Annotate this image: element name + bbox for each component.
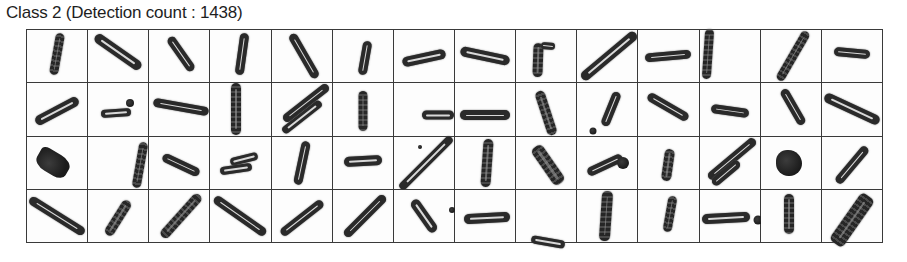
crystal-rod xyxy=(706,136,758,181)
crystal-rod xyxy=(829,192,875,249)
crystal-rod xyxy=(779,88,807,127)
detection-cell[interactable] xyxy=(577,190,638,243)
crystal-rod xyxy=(646,92,690,123)
detection-cell[interactable] xyxy=(27,137,88,190)
detection-cell[interactable] xyxy=(638,83,699,136)
detection-cell[interactable] xyxy=(761,137,822,190)
detection-cell[interactable] xyxy=(700,137,761,190)
crystal-rod xyxy=(220,162,253,174)
crystal-rod xyxy=(710,104,749,118)
detection-cell[interactable] xyxy=(700,83,761,136)
crystal-cluster xyxy=(33,145,73,181)
detection-cell[interactable] xyxy=(761,83,822,136)
detection-cell[interactable] xyxy=(761,30,822,83)
detection-cell[interactable] xyxy=(516,137,577,190)
detection-cell[interactable] xyxy=(394,83,455,136)
detection-cell[interactable] xyxy=(577,137,638,190)
detection-cell[interactable] xyxy=(394,137,455,190)
detection-grid xyxy=(26,29,883,243)
crystal-rod xyxy=(49,33,65,76)
detection-cell[interactable] xyxy=(394,30,455,83)
crystal-rod xyxy=(159,192,204,240)
detection-cell[interactable] xyxy=(333,83,394,136)
detection-cell[interactable] xyxy=(272,190,333,243)
crystal-rod xyxy=(600,91,622,128)
detection-cell[interactable] xyxy=(577,83,638,136)
detection-cell[interactable] xyxy=(333,137,394,190)
crystal-rod xyxy=(422,111,454,120)
detection-cell[interactable] xyxy=(149,30,210,83)
crystal-rod xyxy=(344,155,382,167)
crystal-rod xyxy=(161,152,201,177)
crystal-rod xyxy=(701,212,749,224)
crystal-rod xyxy=(480,138,493,187)
crystal-cluster xyxy=(418,145,422,149)
detection-cell[interactable] xyxy=(638,190,699,243)
class-title: Class 2 (Detection count : 1438) xyxy=(6,3,242,23)
detection-cell[interactable] xyxy=(88,30,149,83)
crystal-rod xyxy=(166,35,196,73)
detection-cell[interactable] xyxy=(455,137,516,190)
detection-cell[interactable] xyxy=(455,83,516,136)
crystal-rod xyxy=(101,108,131,118)
detection-cell[interactable] xyxy=(638,30,699,83)
crystal-rod xyxy=(579,30,639,83)
detection-cell[interactable] xyxy=(516,83,577,136)
detection-cell[interactable] xyxy=(88,137,149,190)
crystal-cluster xyxy=(776,150,802,176)
crystal-rod xyxy=(342,193,388,239)
crystal-rod xyxy=(661,148,675,181)
crystal-rod xyxy=(464,212,510,224)
detection-cell[interactable] xyxy=(27,83,88,136)
crystal-rod xyxy=(153,98,210,117)
detection-cell[interactable] xyxy=(333,190,394,243)
detection-cell[interactable] xyxy=(88,190,149,243)
detection-cell[interactable] xyxy=(272,83,333,136)
detection-cell[interactable] xyxy=(700,30,761,83)
detection-cell[interactable] xyxy=(516,190,577,243)
detection-cell[interactable] xyxy=(149,83,210,136)
detection-cell[interactable] xyxy=(272,137,333,190)
detection-cell[interactable] xyxy=(700,190,761,243)
crystal-rod xyxy=(287,32,320,80)
detection-cell[interactable] xyxy=(88,83,149,136)
detection-cell[interactable] xyxy=(638,137,699,190)
detection-cell[interactable] xyxy=(333,30,394,83)
crystal-rod xyxy=(460,46,511,66)
detection-cell[interactable] xyxy=(394,190,455,243)
crystal-rod xyxy=(93,32,144,72)
crystal-rod xyxy=(293,140,311,185)
crystal-rod xyxy=(645,50,692,63)
crystal-rod xyxy=(132,141,149,188)
detection-cell[interactable] xyxy=(210,190,271,243)
detection-cell[interactable] xyxy=(455,190,516,243)
detection-cell[interactable] xyxy=(272,30,333,83)
crystal-rod xyxy=(599,191,613,242)
crystal-rod xyxy=(103,198,133,237)
crystal-rod xyxy=(235,33,250,76)
crystal-rod xyxy=(460,110,510,120)
detection-cell[interactable] xyxy=(822,30,883,83)
detection-cell[interactable] xyxy=(822,137,883,190)
detection-cell[interactable] xyxy=(761,190,822,243)
crystal-rod xyxy=(530,143,566,186)
detection-cell[interactable] xyxy=(210,30,271,83)
detection-cell[interactable] xyxy=(210,83,271,136)
crystal-rod xyxy=(531,235,566,249)
detection-cell[interactable] xyxy=(577,30,638,83)
crystal-rod xyxy=(278,198,325,237)
detection-cell[interactable] xyxy=(27,30,88,83)
detection-cell[interactable] xyxy=(210,137,271,190)
detection-cell[interactable] xyxy=(149,137,210,190)
detection-cell[interactable] xyxy=(822,83,883,136)
detection-cell[interactable] xyxy=(516,30,577,83)
detection-cell[interactable] xyxy=(27,190,88,243)
crystal-rod xyxy=(823,92,882,126)
detection-cell[interactable] xyxy=(149,190,210,243)
crystal-rod xyxy=(398,134,455,191)
crystal-rod xyxy=(834,47,871,59)
detection-cell[interactable] xyxy=(822,190,883,243)
crystal-rod xyxy=(28,195,87,237)
detection-cell[interactable] xyxy=(455,30,516,83)
crystal-rod xyxy=(541,42,556,50)
